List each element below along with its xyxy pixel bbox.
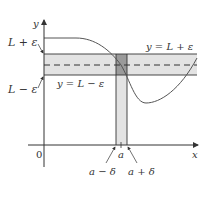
upper-epsilon-pointer bbox=[38, 44, 43, 53]
upper-epsilon-label: L + ε bbox=[7, 36, 38, 49]
y-axis-label: y bbox=[32, 18, 39, 29]
upper-line-label: y = L + ε bbox=[145, 41, 193, 52]
epsilon-delta-diagram: y x 0 L + ε L − ε y = L + ε y = L − ε a … bbox=[0, 0, 209, 200]
left-delta-label: a − δ bbox=[89, 166, 116, 177]
a-label: a bbox=[118, 149, 124, 160]
lower-epsilon-label: L − ε bbox=[7, 83, 38, 96]
left-delta-pointer bbox=[106, 147, 115, 163]
lower-epsilon-pointer bbox=[38, 77, 43, 88]
lower-line-label: y = L − ε bbox=[56, 78, 104, 89]
right-delta-pointer bbox=[128, 147, 137, 163]
origin-label: 0 bbox=[36, 149, 42, 160]
right-delta-label: a + δ bbox=[128, 166, 155, 177]
x-axis-label: x bbox=[192, 149, 198, 160]
